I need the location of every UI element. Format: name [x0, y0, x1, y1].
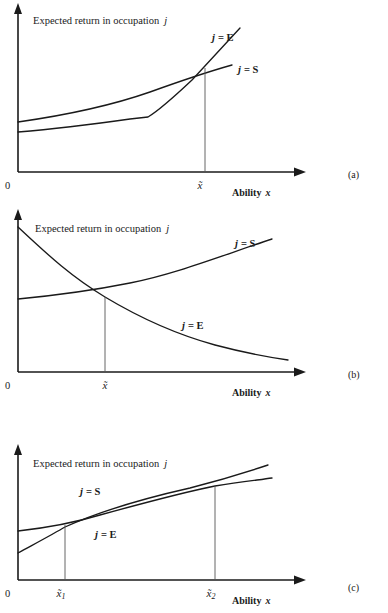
panel-c-axis-title: Expected return in occupationj [33, 458, 167, 469]
panel-a-tick-xtilde: x̃ [197, 179, 204, 191]
panel-c-curve-e [18, 465, 268, 553]
panel-b-tick-xtilde: x̃ [102, 379, 109, 391]
panel-b-x-axis-arrowhead [294, 368, 306, 377]
panel-c-label-e: j= E [93, 529, 117, 540]
panel-a-origin-label: 0 [5, 180, 10, 191]
panel-a-x-axis-label: Abilityx [232, 187, 270, 198]
panel-c-tick-xtilde1: x̃1 [56, 587, 66, 601]
panel-c-x-axis-label: Abilityx [232, 595, 270, 606]
panel-b-origin-label: 0 [5, 380, 10, 391]
panel-b-axis-title: Expected return in occupationj [35, 223, 169, 234]
panel-b-curve-s [18, 239, 272, 299]
panel-b-x-axis-label: Abilityx [232, 387, 270, 398]
panel-a: Expected return in occupationj j= E j= S… [0, 0, 388, 205]
panel-a-axis-title: Expected return in occupationj [33, 15, 167, 26]
panel-a-x-axis-arrowhead [294, 168, 306, 177]
panel-c-origin-label: 0 [5, 588, 10, 599]
panel-c-y-axis-arrowhead [14, 444, 22, 455]
panel-a-tag: (a) [348, 169, 359, 181]
panel-c-x-axis-arrowhead [294, 576, 306, 585]
panel-c-label-s: j= S [78, 486, 101, 497]
panel-b-label-e: j= E [180, 320, 204, 331]
figure-root: Expected return in occupationj j= E j= S… [0, 0, 388, 613]
panel-c-tick-xtilde2: x̃2 [206, 587, 216, 601]
panel-c-curve-s [18, 478, 272, 531]
panel-a-y-axis-arrowhead [14, 3, 22, 14]
panel-c-tag: (c) [348, 582, 359, 594]
panel-c: Expected return in occupationj j= S j= E… [0, 405, 388, 613]
panel-a-label-s: j= S [236, 64, 259, 75]
panel-a-curve-s [18, 65, 232, 122]
panel-b-y-axis-arrowhead [14, 209, 22, 220]
panel-b-tag: (b) [348, 369, 360, 381]
panel-b-label-s: j= S [233, 238, 256, 249]
panel-b: Expected return in occupationj j= S j= E… [0, 205, 388, 405]
panel-a-label-e: j= E [210, 32, 234, 43]
